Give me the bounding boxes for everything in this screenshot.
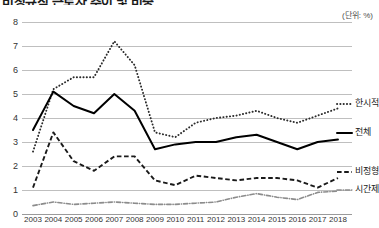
series-line-전체 — [33, 92, 338, 150]
series-line-비정형 — [33, 132, 338, 187]
legend-label-비정형[interactable]: 비정형 — [355, 167, 379, 176]
legend-label-한시적[interactable]: 한시적 — [355, 99, 379, 108]
legend-label-전체[interactable]: 전체 — [355, 128, 371, 137]
series-line-한시적 — [33, 41, 338, 151]
series-line-시간제 — [33, 191, 338, 205]
legend-label-시간제[interactable]: 시간제 — [355, 185, 379, 194]
